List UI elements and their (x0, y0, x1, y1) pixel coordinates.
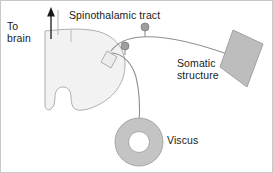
neuron-cell-body-somatic (141, 23, 149, 37)
spinal-cord-icon (45, 29, 125, 110)
label-somatic-structure: Somatic structure (177, 58, 219, 81)
somatic-structure-icon (220, 30, 263, 87)
label-viscus: Viscus (167, 135, 198, 147)
label-spinothalamic-tract: Spinothalamic tract (69, 10, 160, 22)
referred-pain-diagram: To brain Spinothalamic tract Somatic str… (0, 0, 273, 173)
label-to-brain: To brain (7, 21, 31, 44)
viscus-ring-icon (115, 118, 163, 166)
diagram-canvas (1, 1, 273, 173)
